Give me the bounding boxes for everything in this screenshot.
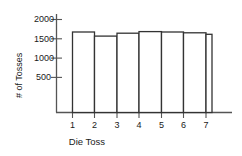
bar-6 <box>184 33 207 113</box>
bar-3 <box>117 33 139 112</box>
bar-2 <box>95 36 118 112</box>
x-axis-title: Die Toss <box>0 136 208 147</box>
y-tick-label-2000: 2000 <box>34 15 54 24</box>
x-tick-label-7: 7 <box>199 121 213 130</box>
x-tick-label-5: 5 <box>155 121 169 130</box>
x-tick-label-1: 1 <box>66 121 80 130</box>
x-tick-label-4: 4 <box>132 121 146 130</box>
x-tick-label-6: 6 <box>177 121 191 130</box>
x-tick-label-3: 3 <box>110 121 124 130</box>
bar-1 <box>73 32 95 113</box>
y-axis-title: # of Tosses <box>14 53 24 98</box>
bar-4 <box>139 32 162 113</box>
y-tick-label-1000: 1000 <box>34 54 54 63</box>
x-tick-label-2: 2 <box>88 121 102 130</box>
y-tick-label-500: 500 <box>36 73 51 82</box>
bar-5 <box>162 32 184 113</box>
bar-chart: 2000 1500 1000 500 1 2 3 4 5 6 7 Die Tos… <box>0 0 242 156</box>
bar-series <box>73 32 213 113</box>
bar-7 <box>206 34 212 112</box>
y-tick-label-1500: 1500 <box>34 35 54 44</box>
